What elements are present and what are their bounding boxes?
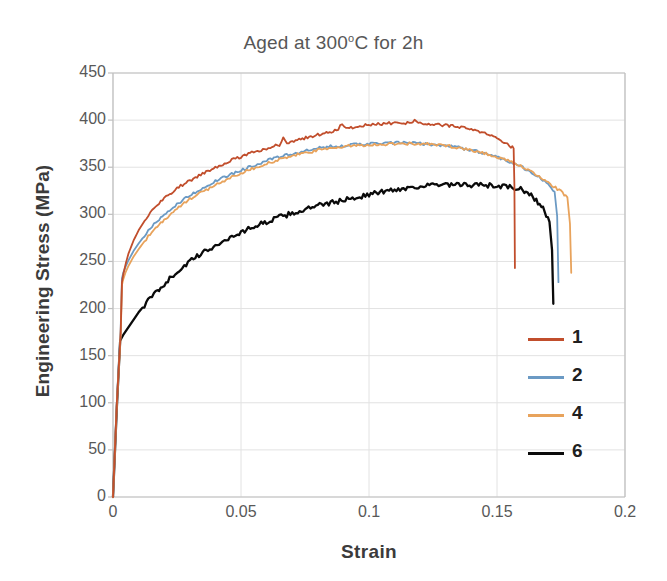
legend-item-1[interactable]: 1 xyxy=(528,322,614,360)
legend-swatch-4 xyxy=(528,414,564,417)
legend-label-6: 6 xyxy=(572,440,583,462)
x-axis-title: Strain xyxy=(113,541,625,563)
legend-item-6[interactable]: 6 xyxy=(528,436,614,474)
plot-canvas xyxy=(0,0,667,581)
x-tick-label: 0 xyxy=(73,503,153,521)
legend-label-2: 2 xyxy=(572,364,583,386)
legend-label-4: 4 xyxy=(572,402,583,424)
legend-swatch-1 xyxy=(528,338,564,341)
legend-label-1: 1 xyxy=(572,326,583,348)
x-tick-label: 0.1 xyxy=(329,503,409,521)
legend-swatch-6 xyxy=(528,452,564,455)
x-tick-label: 0.15 xyxy=(457,503,537,521)
stress-strain-chart: Aged at 300oC for 2h Engineering Stress … xyxy=(0,0,667,581)
legend-swatch-2 xyxy=(528,376,564,379)
series-line-4 xyxy=(113,142,571,497)
x-tick-label: 0.05 xyxy=(201,503,281,521)
legend-item-4[interactable]: 4 xyxy=(528,398,614,436)
series-line-2 xyxy=(113,142,558,497)
legend: 1246 xyxy=(528,322,614,474)
x-tick-label: 0.2 xyxy=(585,503,665,521)
legend-item-2[interactable]: 2 xyxy=(528,360,614,398)
